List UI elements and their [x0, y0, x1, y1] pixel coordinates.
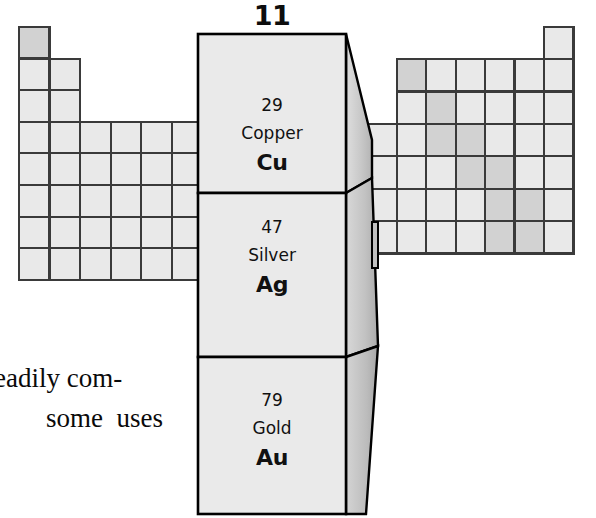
group-number-label: 11 — [198, 0, 346, 33]
element-silver: 47 Silver Ag — [198, 215, 346, 300]
element-symbol: Au — [198, 443, 346, 473]
element-name: Silver — [198, 240, 346, 270]
element-name: Copper — [198, 118, 346, 148]
element-atomic-number: 47 — [198, 215, 346, 240]
figure-canvas: 11 29 Copper Cu 47 Silver Ag 79 Gold Au … — [0, 0, 596, 518]
element-atomic-number: 79 — [198, 388, 346, 413]
element-name: Gold — [198, 413, 346, 443]
column-side-face-gold — [346, 346, 378, 514]
column-side-face-copper — [346, 34, 372, 193]
caption-line-2: some uses — [46, 398, 163, 438]
element-symbol: Ag — [198, 270, 346, 300]
element-gold: 79 Gold Au — [198, 388, 346, 473]
element-symbol: Cu — [198, 148, 346, 178]
element-copper: 29 Copper Cu — [198, 93, 346, 178]
caption-line-1: eadily com- — [0, 358, 122, 398]
column-side-sliver — [372, 222, 378, 268]
element-atomic-number: 29 — [198, 93, 346, 118]
